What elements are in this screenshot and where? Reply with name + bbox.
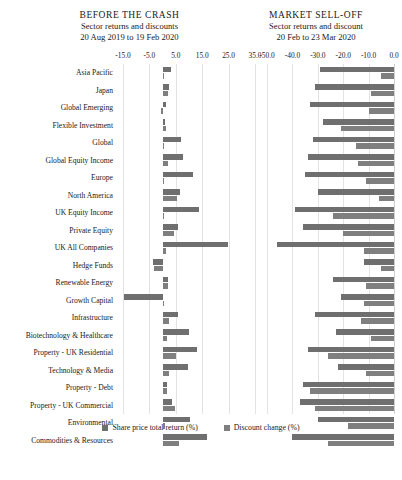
bar-discount-change <box>163 388 167 393</box>
chart-row <box>262 239 394 257</box>
category-label: Property - Debt <box>0 379 118 397</box>
bar-discount-change <box>315 406 394 411</box>
axis-tick-label: -30.0 <box>310 51 325 60</box>
bar-discount-change <box>163 441 180 446</box>
bar-share-price-return <box>163 364 188 369</box>
bar-share-price-return <box>163 312 179 317</box>
bar-discount-change <box>371 91 394 96</box>
chart-row <box>262 117 394 135</box>
bar-discount-change <box>381 73 394 78</box>
category-axis-labels: Asia PacificJapanGlobal EmergingFlexible… <box>0 64 118 449</box>
bar-share-price-return <box>163 67 171 72</box>
bar-share-price-return <box>163 417 191 422</box>
bar-share-price-return <box>163 172 193 177</box>
chart-row <box>123 362 255 380</box>
category-label: Global Emerging <box>0 99 118 117</box>
category-label: Global <box>0 134 118 152</box>
bar-share-price-return <box>163 119 166 124</box>
bar-discount-change <box>348 423 394 428</box>
bar-share-price-return <box>163 224 178 229</box>
bar-discount-change <box>328 353 394 358</box>
left-panel-title-block: BEFORE THE CRASH Sector returns and disc… <box>22 9 237 43</box>
bar-discount-change <box>163 126 167 131</box>
right-chart-panel <box>262 64 394 414</box>
category-label: Infrastructure <box>0 309 118 327</box>
bar-discount-change <box>364 301 394 306</box>
chart-row <box>262 152 394 170</box>
chart-row <box>262 292 394 310</box>
category-label: UK Equity Income <box>0 204 118 222</box>
axis-tick-label: -50.0 <box>259 51 274 60</box>
bar-share-price-return <box>303 224 394 229</box>
bar-share-price-return <box>308 154 394 159</box>
bar-share-price-return <box>364 259 394 264</box>
bar-discount-change <box>343 231 394 236</box>
chart-row <box>262 397 394 415</box>
category-label: Flexible Investment <box>0 117 118 135</box>
bar-share-price-return <box>163 189 180 194</box>
chart-row <box>262 414 394 432</box>
chart-row <box>123 169 255 187</box>
bar-discount-change <box>163 231 174 236</box>
chart-row <box>123 239 255 257</box>
bar-discount-change <box>154 266 162 271</box>
axis-tick-label: 5.0 <box>171 51 180 60</box>
chart-row <box>123 414 255 432</box>
bar-share-price-return <box>163 137 181 142</box>
bar-share-price-return <box>163 154 183 159</box>
left-panel-title: BEFORE THE CRASH <box>22 9 237 21</box>
chart-row <box>262 134 394 152</box>
chart-row <box>262 432 394 450</box>
bar-discount-change <box>366 283 394 288</box>
chart-row <box>123 64 255 82</box>
axis-tick-label: -20.0 <box>336 51 351 60</box>
bar-discount-change <box>163 178 164 183</box>
bar-share-price-return <box>300 399 394 404</box>
bar-discount-change <box>361 318 394 323</box>
chart-row <box>123 292 255 310</box>
chart-row <box>262 99 394 117</box>
chart-row <box>123 309 255 327</box>
axis-tick-row: -15.0-5.05.015.025.035.0 -50.0-40.0-30.0… <box>0 51 402 64</box>
right-panel-title: MARKET SELL-OFF <box>241 9 391 21</box>
bar-discount-change <box>163 423 165 428</box>
bar-discount-change <box>163 406 176 411</box>
chart-row <box>123 397 255 415</box>
bar-discount-change <box>163 213 164 218</box>
bar-share-price-return <box>315 312 394 317</box>
category-label: Hedge Funds <box>0 257 118 275</box>
chart-row <box>123 134 255 152</box>
category-label: Property - UK Commercial <box>0 397 118 415</box>
bar-discount-change <box>163 318 169 323</box>
axis-tick-label: -10.0 <box>361 51 376 60</box>
chart-row <box>123 82 255 100</box>
bar-share-price-return <box>163 84 169 89</box>
bar-share-price-return <box>333 277 394 282</box>
axis-tick-label: 0.0 <box>389 51 398 60</box>
bar-discount-change <box>163 161 168 166</box>
bar-share-price-return <box>305 172 394 177</box>
bar-share-price-return <box>163 277 168 282</box>
chart-row <box>262 222 394 240</box>
bar-discount-change <box>163 371 170 376</box>
left-panel-subtitle: Sector returns and discounts <box>22 21 237 32</box>
bar-share-price-return <box>124 294 163 299</box>
left-chart-panel <box>123 64 255 414</box>
category-label: Europe <box>0 169 118 187</box>
bar-discount-change <box>356 143 394 148</box>
category-label: Global Equity Income <box>0 152 118 170</box>
chart-row <box>123 117 255 135</box>
chart-row <box>123 379 255 397</box>
chart-row <box>123 274 255 292</box>
bar-discount-change <box>163 196 177 201</box>
chart-row <box>123 99 255 117</box>
bar-share-price-return <box>338 364 394 369</box>
right-panel-subtitle: Sector returns and discount <box>241 21 391 32</box>
bar-discount-change <box>333 213 394 218</box>
axis-tick-label: 25.0 <box>222 51 235 60</box>
zero-baseline <box>394 64 395 414</box>
right-panel-daterange: 20 Feb to 23 Mar 2020 <box>241 32 391 43</box>
bar-share-price-return <box>323 119 394 124</box>
bar-discount-change <box>161 108 163 113</box>
bar-share-price-return <box>320 67 394 72</box>
